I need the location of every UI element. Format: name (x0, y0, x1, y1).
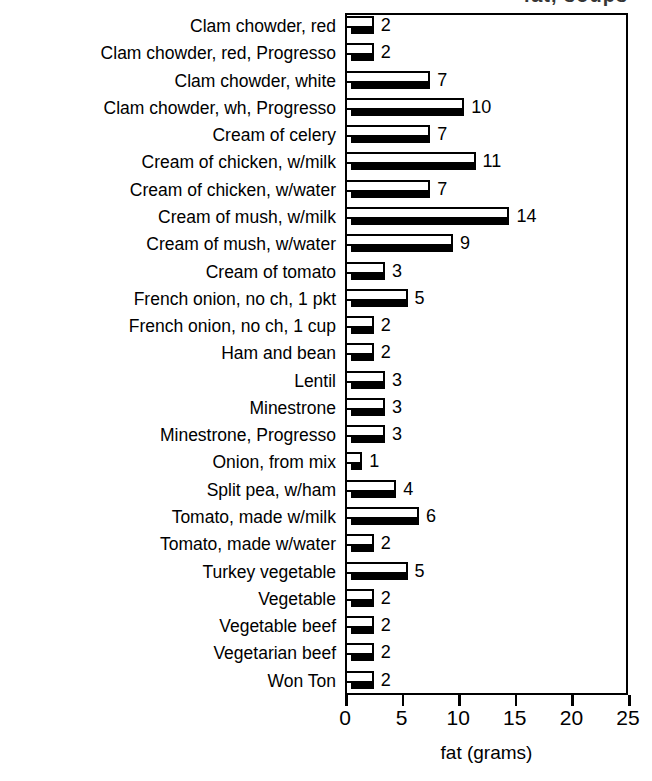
x-tick (628, 695, 631, 706)
bar-value-label: 14 (516, 204, 536, 230)
bar[interactable] (345, 207, 509, 219)
bar-value-label: 2 (381, 531, 391, 557)
bar-row: 2 (345, 531, 652, 557)
bar-row: 11 (345, 149, 652, 175)
bar[interactable] (345, 180, 430, 192)
bar-value-label: 5 (415, 559, 425, 585)
category-label-column: Clam chowder, redClam chowder, red, Prog… (0, 13, 341, 695)
category-label: Won Ton (268, 668, 336, 694)
bar-value-label: 2 (381, 313, 391, 339)
bar-value-label: 7 (437, 177, 447, 203)
bar-row: 4 (345, 477, 652, 503)
bar[interactable] (345, 507, 419, 519)
category-label: Vegetarian beef (213, 640, 336, 666)
bar-value-label: 2 (381, 640, 391, 666)
bar-value-label: 9 (460, 231, 470, 257)
bar-value-label: 2 (381, 40, 391, 66)
bar-row: 2 (345, 40, 652, 66)
bar-row: 7 (345, 122, 652, 148)
bar-row: 2 (345, 668, 652, 694)
bar[interactable] (345, 480, 396, 492)
bar-row: 2 (345, 313, 652, 339)
bar[interactable] (345, 425, 385, 437)
category-label: Minestrone, Progresso (160, 422, 336, 448)
x-axis-title: fat (grams) (345, 742, 628, 764)
bar[interactable] (345, 671, 374, 683)
bar[interactable] (345, 371, 385, 383)
bar[interactable] (345, 43, 374, 55)
bar-row: 2 (345, 613, 652, 639)
category-label: Split pea, w/ham (207, 477, 336, 503)
x-tick-label: 15 (495, 706, 535, 730)
bar-row: 2 (345, 340, 652, 366)
bar-row: 2 (345, 640, 652, 666)
bar-value-label: 7 (437, 122, 447, 148)
category-label: French onion, no ch, 1 pkt (134, 286, 336, 312)
chart-title-clipped: fat, soups (0, 0, 652, 6)
bar[interactable] (345, 125, 430, 137)
bar[interactable] (345, 398, 385, 410)
bar-value-label: 6 (426, 504, 436, 530)
bar[interactable] (345, 534, 374, 546)
x-axis-tick-labels: 0510152025 (325, 706, 652, 736)
bar[interactable] (345, 152, 476, 164)
bar[interactable] (345, 616, 374, 628)
category-label: Clam chowder, white (175, 68, 336, 94)
bar-value-label: 2 (381, 340, 391, 366)
x-tick-label: 0 (325, 706, 365, 730)
x-tick-label: 5 (382, 706, 422, 730)
x-tick (571, 695, 574, 706)
bars-layer: 2271071171493522333146252222 (345, 13, 652, 695)
x-tick-label: 10 (438, 706, 478, 730)
bar-chart: fat, soups Clam chowder, redClam chowder… (0, 0, 652, 781)
category-label: Cream of tomato (206, 259, 336, 285)
bar-value-label: 3 (392, 368, 402, 394)
bar[interactable] (345, 234, 453, 246)
bar-row: 10 (345, 95, 652, 121)
bar-value-label: 2 (381, 613, 391, 639)
x-tick-label: 20 (551, 706, 591, 730)
bar-value-label: 4 (403, 477, 413, 503)
bar[interactable] (345, 262, 385, 274)
bar-row: 5 (345, 286, 652, 312)
category-label: Clam chowder, red, Progresso (101, 40, 336, 66)
bar-value-label: 3 (392, 422, 402, 448)
bar-row: 9 (345, 231, 652, 257)
bar-row: 2 (345, 586, 652, 612)
bar[interactable] (345, 98, 464, 110)
bar-row: 7 (345, 68, 652, 94)
category-label: Tomato, made w/water (160, 531, 336, 557)
bar[interactable] (345, 16, 374, 28)
bar-row: 2 (345, 13, 652, 39)
x-tick (345, 695, 348, 706)
category-label: Cream of celery (212, 122, 336, 148)
category-label: French onion, no ch, 1 cup (129, 313, 336, 339)
bar-row: 5 (345, 559, 652, 585)
bar-row: 6 (345, 504, 652, 530)
bar[interactable] (345, 452, 362, 464)
bar-row: 3 (345, 395, 652, 421)
x-tick (458, 695, 461, 706)
bar[interactable] (345, 562, 408, 574)
category-label: Vegetable (258, 586, 336, 612)
category-label: Minestrone (249, 395, 336, 421)
bar-value-label: 11 (483, 149, 502, 175)
bar[interactable] (345, 71, 430, 83)
bar-value-label: 3 (392, 395, 402, 421)
bar-value-label: 7 (437, 68, 447, 94)
bar[interactable] (345, 643, 374, 655)
bar[interactable] (345, 589, 374, 601)
category-label: Ham and bean (221, 340, 336, 366)
bar-row: 14 (345, 204, 652, 230)
x-tick-label: 25 (608, 706, 648, 730)
bar[interactable] (345, 316, 374, 328)
bar-row: 7 (345, 177, 652, 203)
category-label: Turkey vegetable (202, 559, 336, 585)
bar[interactable] (345, 343, 374, 355)
category-label: Lentil (294, 368, 336, 394)
x-tick (402, 695, 405, 706)
category-label: Cream of mush, w/milk (158, 204, 336, 230)
bar-value-label: 1 (369, 449, 379, 475)
bar[interactable] (345, 289, 408, 301)
bar-value-label: 2 (381, 13, 391, 39)
